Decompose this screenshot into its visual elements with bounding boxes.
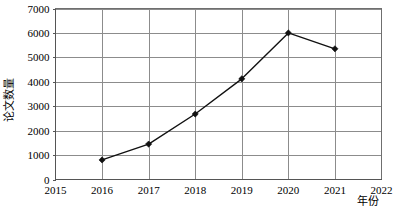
line-chart-figure: 01000200030004000500060007000 2015201620… (0, 0, 398, 216)
chart-canvas: 01000200030004000500060007000 2015201620… (0, 0, 398, 216)
x-tick-label: 2019 (231, 184, 254, 196)
y-tick-label: 5000 (28, 51, 51, 63)
x-tick-label: 2016 (91, 184, 114, 196)
x-tick-label: 2020 (277, 184, 300, 196)
y-tick-label: 1000 (28, 149, 51, 161)
y-tick-label: 6000 (28, 27, 51, 39)
y-tick-label: 7000 (28, 3, 51, 15)
x-axis-title: 年份 (357, 194, 379, 207)
y-tick-label: 2000 (28, 125, 51, 137)
y-tick-label: 4000 (28, 76, 51, 88)
x-tick-label: 2015 (45, 184, 68, 196)
y-tick-label: 3000 (28, 100, 51, 112)
x-tick-label: 2022 (371, 184, 393, 196)
y-axis-title: 论文数量 (2, 78, 15, 122)
x-tick-label: 2021 (324, 184, 346, 196)
x-tick-label: 2017 (138, 184, 161, 196)
x-tick-label: 2018 (184, 184, 207, 196)
